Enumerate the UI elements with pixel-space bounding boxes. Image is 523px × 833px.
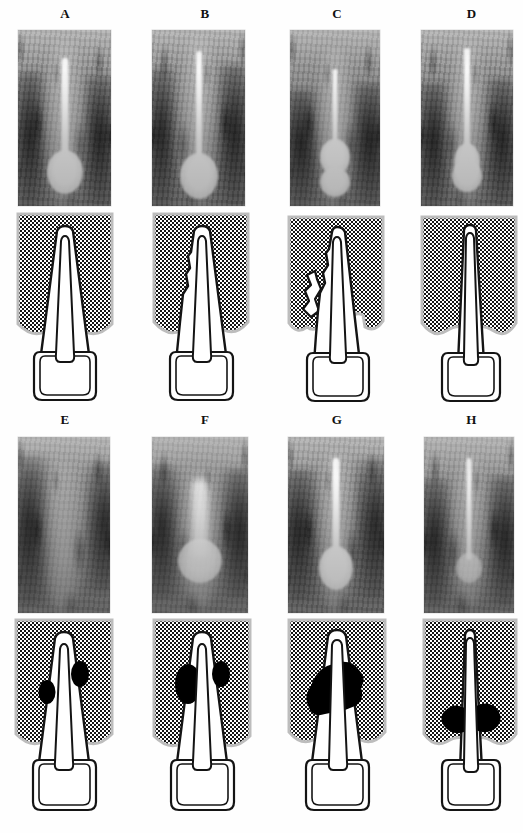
tooth-schematic-g <box>285 618 389 814</box>
periapical-radiograph-a <box>18 30 111 206</box>
panel-label-e: E <box>10 412 120 428</box>
panel-label-d: D <box>420 6 523 22</box>
panel-label-a: A <box>10 6 120 22</box>
periapical-radiograph-f <box>152 437 248 613</box>
panel-label-c: C <box>282 6 392 22</box>
panel-label-g: G <box>282 412 392 428</box>
periapical-radiograph-c <box>290 30 380 206</box>
tooth-schematic-b <box>150 212 252 404</box>
periapical-radiograph-g <box>288 437 384 613</box>
periapical-radiograph-d <box>421 30 513 206</box>
panel-label-f: F <box>150 412 260 428</box>
figure-panel-grid: A <box>0 0 523 833</box>
tooth-schematic-h <box>418 618 522 814</box>
panel-label-b: B <box>150 6 260 22</box>
lesion <box>39 680 56 704</box>
tooth-schematic-e <box>12 618 116 814</box>
tooth-schematic-a <box>14 212 116 404</box>
lesion <box>71 661 89 687</box>
tooth-schematic-f <box>150 618 254 814</box>
panel-label-h: H <box>420 412 523 428</box>
periapical-radiograph-e <box>18 437 110 613</box>
periapical-radiograph-h <box>424 437 514 613</box>
periapical-radiograph-b <box>152 30 245 206</box>
lesion <box>212 661 230 687</box>
tooth-schematic-c <box>285 215 387 405</box>
tooth-schematic-d <box>418 215 520 405</box>
